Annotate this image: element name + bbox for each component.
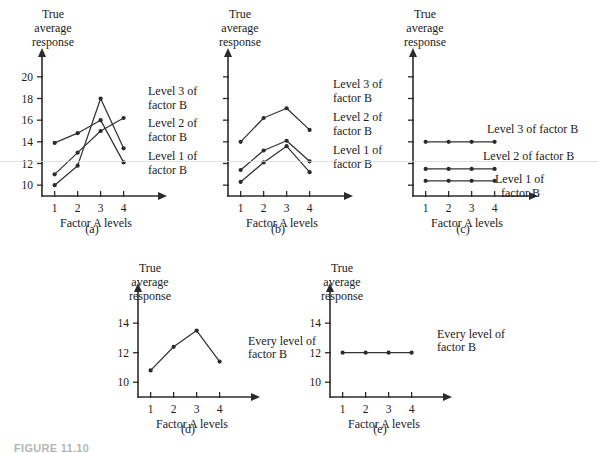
y-tick-label: 12: [22, 158, 34, 170]
series-annotation: Level 3 of: [333, 77, 382, 91]
y-tick-label: 14: [22, 136, 34, 148]
y-axis-title-line-1: True: [414, 7, 436, 21]
y-axis-title-c: Trueaverageresponse: [404, 7, 446, 49]
x-tick-label: 1: [340, 403, 346, 415]
series-b-2: [239, 139, 312, 172]
x-tick-label: 2: [363, 403, 369, 415]
x-tick-label: 3: [98, 202, 104, 214]
data-point: [341, 351, 345, 355]
x-tick-label: 1: [423, 202, 429, 214]
series-annotation-line2: factor B: [333, 157, 372, 171]
panel-d: Trueaverageresponse1012141234Factor A le…: [118, 261, 316, 436]
x-ticks-c: 1234: [423, 191, 498, 214]
data-point: [53, 172, 57, 176]
data-point: [53, 183, 57, 187]
y-axis-title-d: Trueaverageresponse: [129, 261, 171, 303]
data-point: [308, 170, 312, 174]
series-annotation: Level 1 of: [333, 143, 382, 157]
panel-letter-d: (d): [181, 422, 195, 436]
series-annotation-line2: factor B: [333, 91, 372, 105]
annotations-a: Level 3 offactor BLevel 2 offactor BLeve…: [148, 84, 197, 177]
data-point: [122, 146, 126, 150]
y-tick-label: 10: [310, 376, 322, 388]
series-b-3: [239, 144, 312, 184]
y-tick-label: 20: [22, 71, 34, 83]
y-ticks-a: 101214161820: [22, 71, 44, 191]
annotations-d: Every level offactor B: [248, 334, 316, 361]
x-ticks-b: 1234: [238, 191, 313, 214]
x-tick-label: 3: [284, 202, 290, 214]
y-axis-title-line-1: True: [331, 261, 353, 275]
series-annotation: Level 2 of: [333, 110, 382, 124]
annotations-e: Every level offactor B: [437, 327, 505, 354]
data-point: [493, 140, 497, 144]
data-point: [99, 129, 103, 133]
y-axis-title-line-2: average: [34, 21, 71, 35]
x-tick-label: 1: [52, 202, 58, 214]
series-c-1: [424, 140, 497, 144]
y-axis-arrowhead-c: [409, 48, 417, 57]
series-annotation-line2: factor B: [148, 163, 187, 177]
y-axis-title-line-1: True: [42, 7, 64, 21]
x-ticks-e: 1234: [340, 392, 415, 415]
y-axis-title-a: Trueaverageresponse: [32, 7, 74, 49]
x-axis-arrowhead-e: [443, 393, 452, 401]
series-annotation-line2: factor B: [501, 186, 540, 200]
series-annotation: Level 2 of factor B: [483, 149, 574, 163]
series-annotation: Level 3 of factor B: [487, 122, 578, 136]
y-tick-label: 12: [310, 347, 322, 359]
y-axis-title-b: Trueaverageresponse: [219, 7, 261, 49]
x-tick-label: 1: [148, 403, 154, 415]
annotations-b: Level 3 offactor BLevel 2 offactor BLeve…: [333, 77, 382, 171]
y-axis-arrowhead-a: [38, 48, 46, 57]
panel-letter-c: (c): [456, 222, 469, 236]
x-tick-label: 2: [171, 403, 177, 415]
data-point: [99, 96, 103, 100]
data-point: [76, 151, 80, 155]
data-point: [239, 180, 243, 184]
series-annotation: Every level of: [437, 327, 505, 341]
x-tick-label: 1: [238, 202, 244, 214]
series-e-1: [341, 351, 414, 355]
x-tick-label: 4: [492, 202, 498, 214]
panel-a: Trueaverageresponse1012141618201234Facto…: [22, 7, 198, 236]
x-ticks-d: 1234: [148, 392, 223, 415]
y-tick-label: 16: [22, 114, 34, 126]
data-point: [262, 148, 266, 152]
x-tick-label: 4: [409, 403, 415, 415]
data-point: [76, 131, 80, 135]
y-axis-title-line-3: response: [219, 35, 261, 49]
data-point: [364, 351, 368, 355]
panel-letter-e: (e): [373, 422, 386, 436]
panel-letter-a: (a): [85, 222, 98, 236]
x-tick-label: 3: [469, 202, 475, 214]
series-c-2: [424, 167, 497, 171]
series-line: [241, 141, 310, 170]
series-annotation: Every level of: [248, 334, 316, 348]
data-point: [424, 167, 428, 171]
data-point: [424, 140, 428, 144]
series-d-1: [149, 328, 222, 372]
x-tick-label: 4: [217, 403, 223, 415]
y-tick-label: 14: [310, 317, 322, 329]
data-point: [99, 118, 103, 122]
data-point: [285, 144, 289, 148]
data-point: [195, 328, 199, 332]
x-ticks-a: 1234: [52, 191, 127, 214]
y-tick-label: 10: [22, 179, 34, 191]
series-annotation: Level 3 of: [148, 84, 197, 98]
data-point: [122, 160, 126, 164]
data-point: [410, 351, 414, 355]
x-axis-arrowhead-b: [344, 192, 353, 200]
data-point: [470, 140, 474, 144]
y-axis-title-line-3: response: [32, 35, 74, 49]
series-annotation-line2: factor B: [333, 124, 372, 138]
data-point: [308, 159, 312, 163]
y-axis-title-line-2: average: [406, 21, 443, 35]
series-c-3: [424, 179, 497, 183]
x-tick-label: 4: [121, 202, 127, 214]
data-point: [262, 116, 266, 120]
y-axis-title-line-1: True: [229, 7, 251, 21]
